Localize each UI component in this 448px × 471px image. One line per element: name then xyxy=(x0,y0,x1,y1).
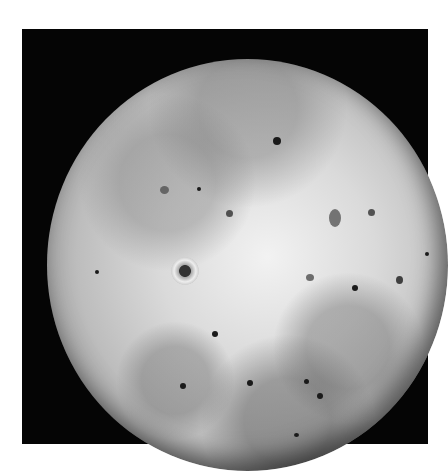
volcanic-spot xyxy=(247,380,253,386)
volcanic-spot xyxy=(160,186,169,194)
volcanic-spot xyxy=(95,270,99,274)
volcanic-spot xyxy=(226,210,233,217)
volcanic-spot xyxy=(180,383,186,389)
volcanic-spot xyxy=(273,137,281,145)
volcanic-spot xyxy=(368,209,375,216)
volcanic-spot xyxy=(306,274,314,281)
black-background-frame xyxy=(22,29,428,444)
volcanic-spot xyxy=(294,433,299,437)
volcanic-spot xyxy=(396,276,403,284)
volcanic-spot xyxy=(212,331,218,337)
volcanic-spot xyxy=(317,393,323,399)
volcanic-spot xyxy=(304,379,309,384)
volcanic-spot xyxy=(329,209,341,227)
volcano-halo xyxy=(171,257,199,285)
volcanic-spot xyxy=(197,187,201,191)
io-moon-globe xyxy=(47,59,448,471)
volcanic-spot xyxy=(425,252,429,256)
volcanic-spot xyxy=(352,285,358,291)
